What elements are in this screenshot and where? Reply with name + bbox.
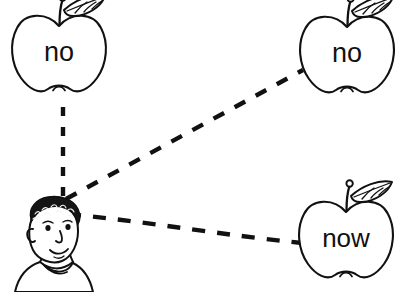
link-to-apple-top-right[interactable] <box>66 70 303 199</box>
apple-bottom-right-word: now <box>322 223 370 253</box>
child-head[interactable] <box>15 197 93 292</box>
right-eye <box>65 224 70 230</box>
apple-top-left-word: no <box>44 37 74 67</box>
apple-bottom-right[interactable]: now <box>299 180 393 277</box>
left-eye <box>45 225 50 231</box>
link-to-apple-bottom-right[interactable] <box>68 214 302 243</box>
apple-top-right-word: no <box>332 38 362 68</box>
worksheet-canvas: no no now <box>0 0 395 292</box>
apple-top-right[interactable]: no <box>300 0 394 92</box>
worksheet-illustration: no no now <box>0 0 395 292</box>
apple-top-left[interactable]: no <box>12 0 106 91</box>
connection-lines <box>63 70 303 243</box>
